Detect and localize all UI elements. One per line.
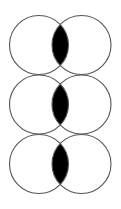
- venn-diagram-stack: [0, 0, 121, 209]
